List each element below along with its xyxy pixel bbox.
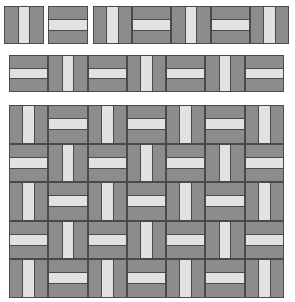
- tile-light-band: [263, 6, 276, 44]
- tile-horizontal: [132, 6, 171, 44]
- tile-strip-1: [93, 6, 289, 44]
- tile-light-band: [106, 6, 119, 44]
- tile-light-band: [140, 144, 153, 183]
- tile-vertical: [88, 105, 127, 144]
- tile-horizontal: [127, 182, 166, 221]
- single-tile-horizontal: [48, 6, 88, 44]
- tile-horizontal: [48, 182, 87, 221]
- tile-strip-2: [9, 55, 284, 92]
- basketweave-grid: [9, 105, 284, 298]
- tile-horizontal: [127, 259, 166, 298]
- tile-light-band: [205, 195, 244, 207]
- tile-light-band: [9, 68, 48, 80]
- tile-vertical: [48, 55, 87, 92]
- tile-light-band: [127, 195, 166, 207]
- tile-light-band: [179, 259, 192, 298]
- tile-light-band: [140, 55, 153, 92]
- tile-light-band: [62, 221, 75, 260]
- tile-light-band: [245, 68, 284, 80]
- tile-vertical: [88, 182, 127, 221]
- tile-light-band: [127, 118, 166, 130]
- tile-light-band: [245, 234, 284, 246]
- tile-light-band: [132, 19, 171, 31]
- tile-light-band: [62, 55, 75, 92]
- tile-vertical: [127, 144, 166, 183]
- tile-light-band: [219, 55, 232, 92]
- tile-light-band: [48, 19, 88, 31]
- tile-horizontal: [48, 259, 87, 298]
- single-tile-vertical: [4, 6, 44, 44]
- tile-light-band: [62, 144, 75, 183]
- tile-vertical: [127, 55, 166, 92]
- tile-light-band: [219, 144, 232, 183]
- tile-vertical: [48, 221, 87, 260]
- tile-vertical: [9, 105, 48, 144]
- tile-horizontal: [211, 6, 250, 44]
- tile-light-band: [140, 221, 153, 260]
- tile-light-band: [88, 234, 127, 246]
- tile-horizontal: [88, 221, 127, 260]
- tile-horizontal: [9, 221, 48, 260]
- tile-light-band: [88, 68, 127, 80]
- tile-light-band: [101, 259, 114, 298]
- tile-light-band: [166, 68, 205, 80]
- tile-vertical: [166, 182, 205, 221]
- tile-light-band: [166, 157, 205, 169]
- tile-vertical: [9, 182, 48, 221]
- tile-horizontal: [9, 144, 48, 183]
- tile-light-band: [48, 272, 87, 284]
- tile-horizontal: [166, 55, 205, 92]
- tile-vertical: [88, 259, 127, 298]
- tile-light-band: [205, 272, 244, 284]
- tile-vertical: [245, 259, 284, 298]
- tile-vertical: [48, 144, 87, 183]
- tile-light-band: [219, 221, 232, 260]
- tile-horizontal: [205, 182, 244, 221]
- tile-light-band: [9, 157, 48, 169]
- tile-horizontal: [205, 105, 244, 144]
- tile-light-band: [205, 118, 244, 130]
- tile-light-band: [179, 105, 192, 144]
- tile-horizontal: [245, 144, 284, 183]
- tile-light-band: [22, 105, 35, 144]
- tile-vertical: [205, 144, 244, 183]
- tile-light-band: [9, 234, 48, 246]
- tile-light-band: [258, 105, 271, 144]
- tile-vertical: [9, 259, 48, 298]
- tile-light-band: [22, 182, 35, 221]
- tile-light-band: [185, 6, 198, 44]
- tile-horizontal: [245, 221, 284, 260]
- tile-vertical: [93, 6, 132, 44]
- tile-light-band: [18, 6, 31, 44]
- tile-light-band: [48, 195, 87, 207]
- tile-horizontal: [48, 6, 88, 44]
- tile-light-band: [101, 105, 114, 144]
- tile-horizontal: [88, 55, 127, 92]
- tile-horizontal: [9, 55, 48, 92]
- tile-vertical: [245, 105, 284, 144]
- tile-light-band: [127, 272, 166, 284]
- tile-vertical: [4, 6, 44, 44]
- tile-light-band: [22, 259, 35, 298]
- tile-vertical: [166, 259, 205, 298]
- tile-horizontal: [166, 144, 205, 183]
- tile-vertical: [245, 182, 284, 221]
- tile-vertical: [171, 6, 210, 44]
- tile-vertical: [127, 221, 166, 260]
- tile-light-band: [101, 182, 114, 221]
- tile-light-band: [258, 182, 271, 221]
- tile-horizontal: [48, 105, 87, 144]
- tile-horizontal: [88, 144, 127, 183]
- tile-light-band: [166, 234, 205, 246]
- tile-light-band: [179, 182, 192, 221]
- tile-vertical: [250, 6, 289, 44]
- tile-light-band: [258, 259, 271, 298]
- tile-horizontal: [205, 259, 244, 298]
- tile-horizontal: [245, 55, 284, 92]
- tile-horizontal: [166, 221, 205, 260]
- tile-light-band: [48, 118, 87, 130]
- tile-light-band: [88, 157, 127, 169]
- tile-vertical: [205, 55, 244, 92]
- tile-vertical: [205, 221, 244, 260]
- tile-horizontal: [127, 105, 166, 144]
